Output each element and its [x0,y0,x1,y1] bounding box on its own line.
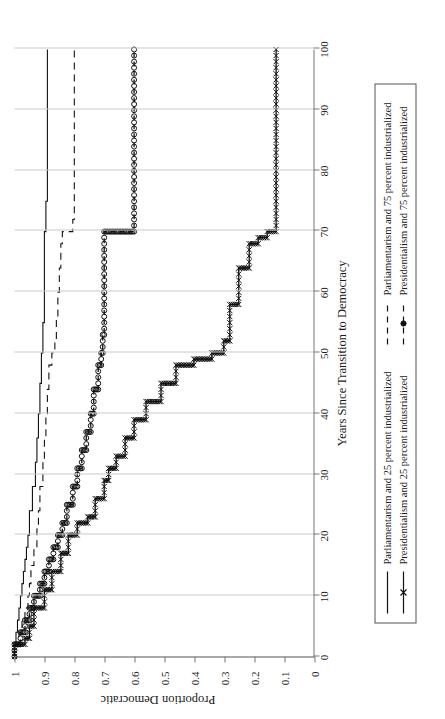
series-1 [14,49,47,656]
legend-grid: Parliamentarism and 25 percent industria… [380,92,409,614]
y-axis-tick-label: 0.5 [158,671,170,685]
chart-figure-stage: 0102030405060708090100 00.10.20.30.40.50… [0,0,445,719]
circle-marker-icon [101,259,106,264]
x-gridline [14,594,313,595]
y-axis-tick-label: 0 [308,671,320,677]
x-gridline [14,473,313,474]
legend-item: Parliamentarism and 25 percent industria… [380,361,393,614]
x-axis-tick-labels: 0102030405060708090100 [314,49,334,657]
series-2 [14,49,74,656]
y-axis-tick-labels: 00.10.20.30.40.50.60.70.80.91 [14,661,314,719]
solid-line-x-marker-icon [397,570,409,614]
legend-item-label: Parliamentarism and 25 percent industria… [380,371,393,564]
x-gridline [14,351,313,352]
dashed-line-circle-marker-icon [397,301,409,345]
circle-marker-icon [95,380,100,385]
circle-marker-icon [101,277,106,282]
x-axis-tick-label: 10 [317,591,329,602]
x-axis-tick-label: 80 [317,165,329,176]
x-gridline [14,412,313,413]
x-gridline [14,229,313,230]
x-axis-tick-label: 50 [317,348,329,359]
y-axis-title: Proportion Democratic [8,692,308,707]
x-gridline [14,290,313,291]
x-axis-tick-label: 70 [317,226,329,237]
x-gridline [14,108,313,109]
y-axis-tick-label: 0.8 [68,671,80,685]
circle-marker-icon [70,490,75,495]
x-axis-tick-label: 60 [317,287,329,298]
circle-marker-icon [79,453,84,458]
x-gridline [14,169,313,170]
y-axis-tick-label: 0.6 [128,671,140,685]
x-axis-tick-label: 0 [317,654,329,660]
circle-marker-icon [131,83,136,88]
y-axis-tick-label: 0.3 [218,671,230,685]
dashed-line-icon [381,301,393,345]
circle-marker-icon [101,295,106,300]
y-axis-tick-label: 0.2 [248,671,260,685]
y-axis-tick-label: 0.4 [188,671,200,685]
y-axis-tick-label: 0.9 [38,671,50,685]
survival-curve-figure: 0102030405060708090100 00.10.20.30.40.50… [0,0,445,719]
legend-item-label: Parliamentarism and 75 percent industria… [380,102,393,295]
y-axis-tick-label: 0.7 [98,671,110,685]
legend-item: Presidentialism and 75 percent industria… [396,92,409,345]
legend-item-label: Presidentialism and 25 percent industria… [396,375,409,564]
x-axis-tick-label: 30 [317,469,329,480]
x-axis-tick-label: 90 [317,104,329,115]
circle-marker-icon [131,101,136,106]
circle-marker-icon [101,314,106,319]
circle-marker-icon [50,550,55,555]
legend-item-label: Presidentialism and 75 percent industria… [396,106,409,295]
plot-area [14,49,314,657]
x-axis-tick-label: 20 [317,530,329,541]
circle-marker-icon [131,156,136,161]
circle-marker-icon [101,241,106,246]
x-gridline [14,47,313,48]
y-axis-tick-label: 1 [8,671,20,677]
solid-line-icon [381,570,393,614]
curves-layer [14,49,313,656]
x-axis-tick-label: 100 [317,41,329,58]
circle-marker-icon [91,392,96,397]
circle-marker-icon [131,119,136,124]
circle-marker-icon [88,417,93,422]
circle-marker-icon [98,356,103,361]
legend: Parliamentarism and 25 percent industria… [374,83,416,623]
series-line [14,49,74,656]
circle-marker-icon [131,65,136,70]
x-axis-tick-label: 40 [317,408,329,419]
series-line [14,49,47,656]
y-axis-tick-label: 0.1 [278,671,290,685]
legend-item: Parliamentarism and 75 percent industria… [380,92,393,345]
legend-item: Presidentialism and 25 percent industria… [396,361,409,614]
circle-marker-icon [131,174,136,179]
x-axis-title: Years Since Transition to Democracy [334,49,349,657]
circle-marker-icon [131,138,136,143]
x-gridline [14,533,313,534]
